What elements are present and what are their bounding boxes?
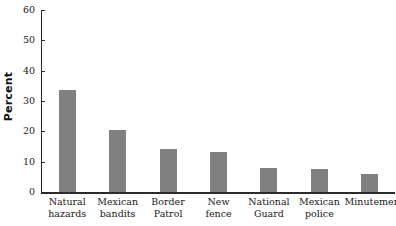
bar [160, 149, 177, 192]
x-tick-label: Mexicanbandits [92, 196, 142, 220]
bar [361, 174, 378, 192]
x-axis-line [41, 192, 395, 194]
x-tick-label: NationalGuard [244, 196, 294, 220]
y-tick-mark [41, 131, 45, 132]
x-axis-tick-labels: NaturalhazardsMexicanbanditsBorderPatrol… [42, 196, 395, 226]
y-axis-title: Percent [0, 0, 18, 192]
y-tick-label: 40 [23, 66, 35, 76]
x-tick-label-line: Patrol [143, 208, 193, 220]
x-tick-label-line: New [193, 196, 243, 208]
bar [260, 168, 277, 192]
y-tick-mark [41, 162, 45, 163]
y-axis-tick-labels: 0102030405060 [18, 0, 38, 226]
bar [311, 169, 328, 192]
bar-chart-figure: Percent 0102030405060 NaturalhazardsMexi… [0, 0, 396, 226]
y-tick-label: 60 [23, 5, 35, 15]
x-tick-label-line: Minutemen [345, 196, 395, 208]
y-tick-label: 0 [29, 187, 35, 197]
y-tick-label: 10 [23, 157, 35, 167]
bar [59, 90, 76, 192]
x-tick-label-line: police [294, 208, 344, 220]
y-tick-mark [41, 192, 45, 193]
y-tick-label: 20 [23, 127, 35, 137]
bar [210, 152, 227, 192]
x-tick-label-line: Border [143, 196, 193, 208]
x-tick-label-line: Mexican [294, 196, 344, 208]
y-tick-label: 50 [23, 36, 35, 46]
plot-area [42, 10, 395, 192]
x-tick-label: Newfence [193, 196, 243, 220]
y-tick-mark [41, 101, 45, 102]
x-tick-label-line: fence [193, 208, 243, 220]
bar [109, 130, 126, 192]
x-tick-label: BorderPatrol [143, 196, 193, 220]
y-tick-mark [41, 40, 45, 41]
x-tick-label-line: bandits [92, 208, 142, 220]
x-tick-label-line: Natural [42, 196, 92, 208]
y-tick-label: 30 [23, 96, 35, 106]
y-axis-title-text: Percent [3, 71, 16, 120]
x-tick-label-line: National [244, 196, 294, 208]
x-tick-label-line: Mexican [92, 196, 142, 208]
y-tick-mark [41, 10, 45, 11]
x-tick-label-line: hazards [42, 208, 92, 220]
x-tick-label-line: Guard [244, 208, 294, 220]
x-tick-label: Minutemen [345, 196, 395, 208]
x-tick-label: Naturalhazards [42, 196, 92, 220]
x-tick-label: Mexicanpolice [294, 196, 344, 220]
y-tick-mark [41, 71, 45, 72]
